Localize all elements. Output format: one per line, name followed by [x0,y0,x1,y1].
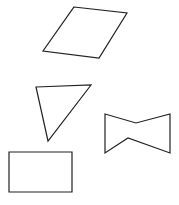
parallelogram-shape [43,7,127,58]
shapes-canvas [0,0,179,205]
bowtie-shape [105,114,170,153]
rectangle-shape [9,152,72,192]
triangle-shape [36,85,91,141]
